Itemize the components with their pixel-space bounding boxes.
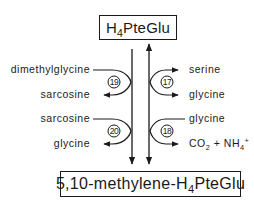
folate-pathway-diagram: H4PteGlu 5,10-methylene-H4PteGlu 19 20 1… [0,0,254,202]
reaction-17-product: glycine [189,88,225,100]
step-19-number: 19 [108,76,120,88]
reaction-20-product: glycine [54,137,90,149]
step-20-number: 20 [108,125,120,137]
reaction-18-substrate: glycine [189,112,225,124]
step-18-number: 18 [161,125,173,137]
pathway-arrows [0,0,254,202]
reaction-18-product: CO2 + NH4+ [189,137,249,149]
reaction-20-substrate: sarcosine [41,112,90,124]
reaction-17-substrate: serine [189,63,221,75]
step-17-number: 17 [161,76,173,88]
reaction-19-substrate: dimethylglycine [11,63,90,75]
reaction-19-product: sarcosine [41,88,90,100]
